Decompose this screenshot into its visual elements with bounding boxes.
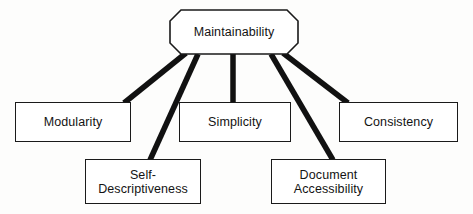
node-simplicity-label: Simplicity xyxy=(208,115,262,129)
node-document-accessibility[interactable]: Document Accessibility xyxy=(271,159,386,204)
node-maintainability[interactable]: Maintainability xyxy=(169,9,299,55)
node-document-accessibility-label: Document Accessibility xyxy=(294,168,363,196)
connector-maintainability-consistency xyxy=(283,53,348,103)
node-consistency[interactable]: Consistency xyxy=(339,102,458,142)
node-self-descriptiveness-label: Self- Descriptiveness xyxy=(98,168,188,196)
node-maintainability-label: Maintainability xyxy=(194,25,275,39)
diagram-canvas: Maintainability Modularity Simplicity Co… xyxy=(0,0,473,214)
node-self-descriptiveness[interactable]: Self- Descriptiveness xyxy=(85,159,201,204)
node-consistency-label: Consistency xyxy=(364,115,433,129)
node-simplicity[interactable]: Simplicity xyxy=(179,102,291,142)
node-modularity-label: Modularity xyxy=(44,115,103,129)
connector-maintainability-modularity xyxy=(124,53,186,103)
node-modularity[interactable]: Modularity xyxy=(15,102,131,142)
